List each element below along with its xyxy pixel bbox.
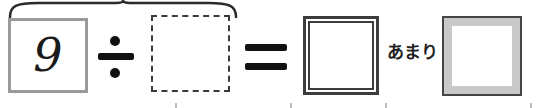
quotient-answer-box-inner bbox=[308, 21, 374, 90]
crop-tick-mark bbox=[290, 103, 292, 108]
divide-dot-top bbox=[110, 36, 120, 46]
divide-bar bbox=[98, 53, 134, 60]
remainder-answer-box-inner bbox=[452, 26, 512, 86]
equals-bar-top bbox=[245, 44, 287, 51]
crop-tick-mark bbox=[530, 103, 532, 108]
remainder-label: あまり bbox=[387, 44, 445, 61]
crop-tick-mark bbox=[385, 103, 387, 108]
equals-bar-bottom bbox=[245, 63, 287, 70]
divide-dot-bottom bbox=[110, 68, 120, 78]
dividend-box[interactable]: 9 bbox=[8, 18, 88, 93]
worksheet-equation-row: 9 あまり bbox=[0, 0, 536, 108]
quotient-answer-box[interactable] bbox=[303, 16, 379, 95]
dividend-value: 9 bbox=[11, 20, 85, 89]
equals-operator-icon bbox=[245, 44, 287, 71]
divisor-answer-box[interactable] bbox=[151, 15, 230, 92]
crop-tick-mark bbox=[175, 103, 177, 108]
divide-operator-icon bbox=[96, 31, 136, 81]
remainder-answer-box[interactable] bbox=[442, 16, 522, 96]
